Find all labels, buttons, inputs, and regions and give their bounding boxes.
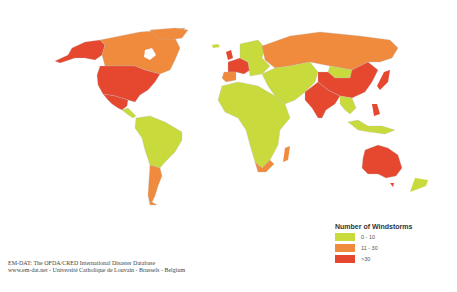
credit-line-1: EM-DAT: The OFDA/CRED International Disa… [8,260,185,267]
legend-label-mid: 11 - 30 [361,245,378,251]
region-uk [226,50,233,60]
source-credit: EM-DAT: The OFDA/CRED International Disa… [8,260,185,274]
legend-item-low: 0 - 10 [335,232,412,241]
region-australia [362,145,402,178]
region-madagascar [283,146,290,162]
region-iceland [212,44,220,48]
region-new-zealand [410,178,428,192]
region-russia [262,32,398,70]
region-southeast-asia [340,96,356,114]
region-central-america [122,108,136,118]
region-alaska [55,40,105,63]
legend-title: Number of Windstorms [335,223,412,230]
legend-label-high: >30 [361,256,370,262]
legend-swatch-high [335,255,355,263]
region-argentina [148,165,162,205]
region-iberia [222,72,236,82]
region-indonesia [348,120,395,134]
legend-item-mid: 11 - 30 [335,243,412,252]
credit-line-2: www.em-dat.net - Université Catholique d… [8,267,185,274]
region-philippines [372,104,380,116]
legend-item-high: >30 [335,254,412,263]
legend-label-low: 0 - 10 [361,234,375,240]
legend-swatch-mid [335,244,355,252]
region-south-america [135,116,182,168]
region-tasmania [390,183,394,187]
region-japan [377,70,390,90]
legend-swatch-low [335,233,355,241]
map-legend: Number of Windstorms 0 - 10 11 - 30 >30 [335,223,412,265]
